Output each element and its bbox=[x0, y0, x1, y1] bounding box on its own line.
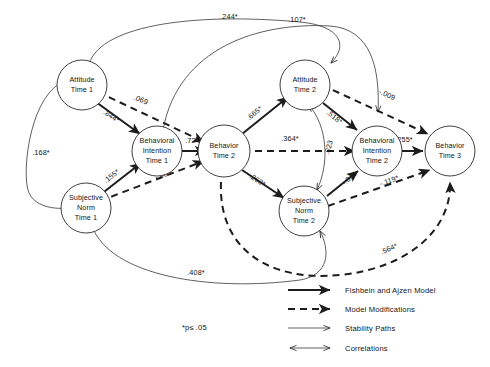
edge-norm2-intention2: -.024 bbox=[327, 169, 359, 196]
coef-label-attitude1-intention1: .844* bbox=[102, 107, 122, 124]
significance-note: *p≤ .05 bbox=[182, 323, 207, 332]
node-norm-time2-line3: Time 2 bbox=[293, 216, 315, 225]
legend-label-fishbein: Fishbein and Ajzen Model bbox=[345, 286, 436, 295]
node-norm-time1[interactable]: Subjective Norm Time 1 bbox=[61, 183, 111, 233]
edge-intention1-intention2: .107* bbox=[163, 15, 378, 130]
node-attitude-time2-line2: Time 2 bbox=[294, 85, 316, 94]
node-norm-time2[interactable]: Subjective Norm Time 2 bbox=[279, 186, 329, 236]
edge-attitude2-intention2: .518* bbox=[323, 103, 357, 130]
node-attitude-time1[interactable]: Attitude Time 1 bbox=[57, 60, 107, 110]
edge-behavior2-intention2: .364* bbox=[243, 134, 355, 151]
legend-item-fishbein: Fishbein and Ajzen Model bbox=[288, 286, 436, 295]
node-intention-time1-line3: Time 1 bbox=[146, 156, 168, 165]
edge-behavior2-attitude2: .665* bbox=[242, 97, 288, 134]
node-behavior-time3-line1: Behavior bbox=[435, 141, 465, 150]
node-attitude-time1-line2: Time 1 bbox=[71, 85, 93, 94]
legend-label-modification: Model Modifications bbox=[345, 305, 415, 314]
node-intention-time2-line3: Time 2 bbox=[366, 156, 388, 165]
node-intention-time1-line2: Intention bbox=[143, 146, 171, 155]
node-attitude-time2[interactable]: Attitude Time 2 bbox=[280, 60, 330, 110]
node-behavior-time3-line2: Time 3 bbox=[439, 151, 461, 160]
legend: Fishbein and Ajzen Model Model Modificat… bbox=[288, 286, 436, 353]
coef-label-attitude1-behavior2: .069 bbox=[132, 93, 149, 107]
node-behavior-time3[interactable]: Behavior Time 3 bbox=[425, 126, 475, 176]
node-norm-time2-line2: Norm bbox=[295, 206, 313, 215]
node-norm-time1-line3: Time 1 bbox=[75, 213, 97, 222]
legend-label-stability: Stability Paths bbox=[345, 324, 395, 333]
path-diagram-canvas: .244* .107* .168* .408* .023 .844* .155*… bbox=[0, 0, 490, 367]
node-intention-time1[interactable]: Behavioral Intention Time 1 bbox=[132, 126, 182, 176]
node-norm-time1-line1: Subjective bbox=[69, 193, 103, 202]
node-behavior-time2-line2: Time 2 bbox=[213, 151, 235, 160]
node-intention-time1-line1: Behavioral bbox=[140, 136, 175, 145]
coef-label-attitude2-behavior3: -.009 bbox=[377, 87, 396, 102]
legend-item-stability: Stability Paths bbox=[288, 324, 395, 333]
coef-label-intention1-intention2: .107* bbox=[288, 15, 306, 24]
node-intention-time2-line2: Intention bbox=[363, 146, 391, 155]
coef-label-norm1-norm2: .408* bbox=[187, 268, 205, 277]
coef-label-attitude1-norm1: .168* bbox=[32, 148, 50, 157]
node-intention-time2-line1: Behavioral bbox=[360, 136, 395, 145]
coef-label-behavior2-behavior3: .564* bbox=[379, 241, 399, 256]
node-intention-time2[interactable]: Behavioral Intention Time 2 bbox=[352, 126, 402, 176]
node-attitude-time2-line1: Attitude bbox=[292, 75, 317, 84]
coef-label-behavior2-intention2: .364* bbox=[281, 134, 299, 143]
node-attitude-time1-line1: Attitude bbox=[69, 75, 94, 84]
coef-label-norm1-intention1: .155* bbox=[102, 167, 121, 185]
node-norm-time1-line2: Norm bbox=[77, 203, 95, 212]
edge-norm1-norm2: .408* bbox=[92, 226, 326, 284]
coef-label-attitude2-intention2: .518* bbox=[325, 108, 344, 126]
path-diagram-figure: .244* .107* .168* .408* .023 .844* .155*… bbox=[0, 0, 490, 367]
edge-behavior2-behavior3: .564* bbox=[221, 182, 450, 276]
edge-attitude1-intention1: .844* bbox=[96, 102, 140, 134]
legend-item-modification: Model Modifications bbox=[288, 305, 415, 314]
edge-behavior2-norm2: .263* bbox=[242, 170, 284, 198]
edge-norm1-intention1: .155* bbox=[100, 163, 141, 195]
node-norm-time2-line1: Subjective bbox=[287, 196, 321, 205]
coef-label-attitude1-attitude2: .244* bbox=[220, 12, 238, 21]
node-behavior-time2-line1: Behavior bbox=[209, 141, 239, 150]
legend-item-correlation: Correlations bbox=[290, 344, 388, 353]
node-behavior-time2[interactable]: Behavior Time 2 bbox=[198, 125, 250, 177]
legend-label-correlation: Correlations bbox=[345, 344, 388, 353]
